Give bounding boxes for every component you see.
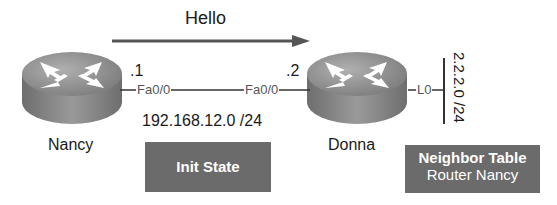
hello-label: Hello <box>185 8 226 29</box>
nancy-ip-suffix: .1 <box>130 62 143 80</box>
neighbor-table-box: Neighbor Table Router Nancy <box>405 145 540 193</box>
router-nancy-icon <box>20 50 124 126</box>
donna-interface-label: Fa0/0 <box>244 82 279 97</box>
init-state-box: Init State <box>145 142 271 192</box>
neighbor-table-title: Neighbor Table <box>405 149 540 166</box>
nancy-interface-label: Fa0/0 <box>136 82 171 97</box>
init-state-label: Init State <box>176 158 239 175</box>
router-nancy-name: Nancy <box>48 136 93 154</box>
hello-arrow <box>110 34 310 48</box>
loopback-interface-label: L0 <box>416 82 432 97</box>
router-donna-name: Donna <box>328 136 375 154</box>
link-network-label: 192.168.12.0 /24 <box>142 112 262 130</box>
neighbor-table-entry: Router Nancy <box>405 166 540 183</box>
router-donna-icon <box>305 50 409 126</box>
loopback-network-label: 2.2.2.0 /24 <box>451 52 468 123</box>
donna-ip-suffix: .2 <box>286 62 299 80</box>
